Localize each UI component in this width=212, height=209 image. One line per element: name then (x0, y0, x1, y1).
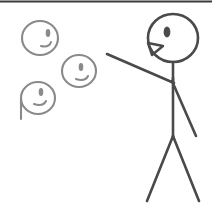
floating-head-top-left-mouth (41, 42, 51, 47)
floating-heads-group (21, 21, 96, 119)
floating-head-middle (62, 55, 96, 87)
floating-head-bottom-left-eye-icon (39, 88, 44, 96)
stick-figure-group (107, 14, 199, 201)
floating-head-bottom-left-mouth (34, 101, 46, 105)
stick-figure-eye-icon (164, 27, 171, 38)
floating-head-middle-mouth (76, 76, 88, 80)
drawing-canvas: Stick figure facing three floating heads… (0, 0, 212, 209)
floating-head-middle-outline (62, 55, 96, 87)
floating-head-bottom-left (21, 82, 55, 119)
floating-head-top-left (22, 21, 58, 55)
stick-figure-leg-right (173, 136, 199, 201)
floating-head-middle-eye-icon (79, 63, 84, 71)
floating-head-top-left-outline (22, 21, 58, 55)
floating-head-top-left-eye-icon (46, 29, 51, 37)
stick-figure-leg-left (147, 136, 173, 201)
floating-head-bottom-left-outline (21, 82, 55, 114)
stick-figure-arm-lowered (172, 81, 196, 136)
stick-figure-arm-raised (107, 54, 174, 83)
stick-figure-head-outline (148, 14, 198, 62)
scene-svg (0, 0, 212, 209)
